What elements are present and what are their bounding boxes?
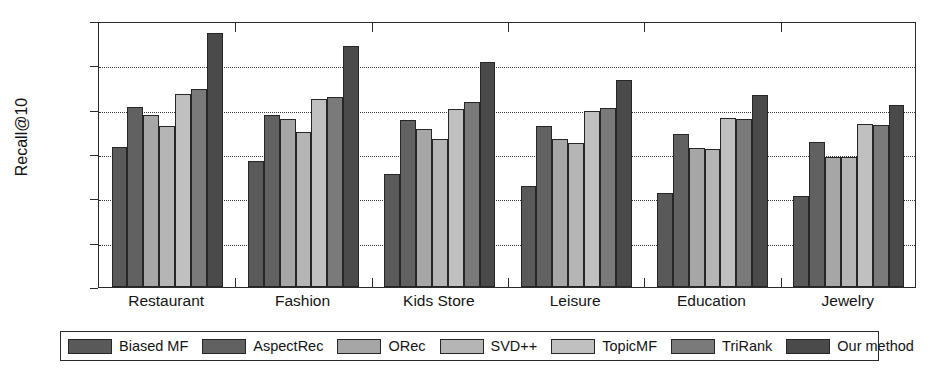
x-axis-tick-top bbox=[781, 23, 782, 32]
legend-swatch bbox=[68, 339, 112, 354]
legend-swatch bbox=[671, 339, 715, 354]
legend-item[interactable]: Biased MF bbox=[68, 338, 202, 354]
legend-item[interactable]: TopicMF bbox=[551, 338, 671, 354]
x-axis-tick-top bbox=[508, 23, 509, 32]
legend-label: ORec bbox=[388, 338, 425, 354]
bar[interactable] bbox=[112, 147, 128, 287]
legend-label: Biased MF bbox=[119, 338, 188, 354]
legend-label: TriRank bbox=[722, 338, 772, 354]
bar[interactable] bbox=[568, 143, 584, 287]
bar[interactable] bbox=[207, 33, 223, 287]
bar[interactable] bbox=[343, 46, 359, 287]
bar[interactable] bbox=[127, 107, 143, 287]
x-axis-tick-bottom bbox=[372, 278, 373, 287]
legend-swatch bbox=[202, 339, 246, 354]
bar[interactable] bbox=[327, 97, 343, 287]
bar[interactable] bbox=[143, 115, 159, 287]
bar[interactable] bbox=[448, 109, 464, 287]
bar[interactable] bbox=[657, 193, 673, 287]
x-axis-tick-top bbox=[644, 23, 645, 32]
y-axis-tick-mark bbox=[90, 22, 98, 23]
y-axis-tick-mark bbox=[90, 199, 98, 200]
bar[interactable] bbox=[705, 149, 721, 287]
bar[interactable] bbox=[793, 196, 809, 287]
bar-group bbox=[657, 23, 768, 287]
bar[interactable] bbox=[841, 157, 857, 287]
x-axis-tick-top bbox=[235, 23, 236, 32]
plot-inner bbox=[99, 23, 915, 287]
bar-group-bars bbox=[384, 23, 495, 287]
x-axis-tick-bottom bbox=[781, 278, 782, 287]
bar-group bbox=[248, 23, 359, 287]
bar[interactable] bbox=[311, 99, 327, 287]
bar[interactable] bbox=[584, 111, 600, 287]
bar[interactable] bbox=[432, 139, 448, 287]
bar[interactable] bbox=[280, 119, 296, 287]
bar[interactable] bbox=[480, 62, 496, 287]
legend-item[interactable]: ORec bbox=[337, 338, 439, 354]
y-axis-tick-mark bbox=[90, 288, 98, 289]
bar[interactable] bbox=[464, 102, 480, 287]
bar[interactable] bbox=[552, 139, 568, 287]
bar[interactable] bbox=[248, 161, 264, 287]
legend-label: SVD++ bbox=[491, 338, 538, 354]
bar[interactable] bbox=[416, 129, 432, 287]
bar[interactable] bbox=[521, 186, 537, 287]
bar[interactable] bbox=[825, 157, 841, 287]
legend-item[interactable]: AspectRec bbox=[202, 338, 337, 354]
bar[interactable] bbox=[673, 134, 689, 287]
y-axis-label: Recall@10 bbox=[13, 77, 31, 197]
bar[interactable] bbox=[720, 118, 736, 287]
bar-group bbox=[521, 23, 632, 287]
bar[interactable] bbox=[384, 174, 400, 287]
bar-group bbox=[112, 23, 223, 287]
bar-group-bars bbox=[112, 23, 223, 287]
bar[interactable] bbox=[296, 132, 312, 287]
legend-swatch bbox=[551, 339, 595, 354]
bar-group-bars bbox=[657, 23, 768, 287]
legend-item[interactable]: TriRank bbox=[671, 338, 786, 354]
bar[interactable] bbox=[736, 119, 752, 287]
bar[interactable] bbox=[175, 94, 191, 287]
bar[interactable] bbox=[752, 95, 768, 287]
bar-group-bars bbox=[248, 23, 359, 287]
legend-label: AspectRec bbox=[253, 338, 323, 354]
legend-label: TopicMF bbox=[602, 338, 657, 354]
bar[interactable] bbox=[809, 142, 825, 287]
legend-swatch bbox=[786, 339, 830, 354]
figure-root: Recall@10 00.020.040.060.080.10.12 Resta… bbox=[0, 0, 935, 377]
bar[interactable] bbox=[400, 120, 416, 287]
bar-group-bars bbox=[793, 23, 904, 287]
bar-group bbox=[793, 23, 904, 287]
x-axis-tick-bottom bbox=[644, 278, 645, 287]
y-axis-tick-mark bbox=[90, 244, 98, 245]
x-axis-tick-bottom bbox=[235, 278, 236, 287]
bar[interactable] bbox=[616, 80, 632, 287]
bar-group bbox=[384, 23, 495, 287]
y-axis-tick-mark bbox=[90, 155, 98, 156]
legend-item[interactable]: SVD++ bbox=[440, 338, 552, 354]
bar[interactable] bbox=[889, 105, 905, 287]
bar-group-bars bbox=[521, 23, 632, 287]
chart-legend: Biased MFAspectRecORecSVD++TopicMFTriRan… bbox=[60, 331, 879, 361]
bar[interactable] bbox=[600, 108, 616, 287]
bar[interactable] bbox=[264, 115, 280, 287]
y-axis-tick-mark bbox=[90, 111, 98, 112]
bar[interactable] bbox=[159, 126, 175, 287]
y-axis-tick-mark bbox=[90, 66, 98, 67]
legend-label: Our method bbox=[837, 338, 914, 354]
legend-swatch bbox=[337, 339, 381, 354]
bar[interactable] bbox=[873, 125, 889, 287]
x-axis-tick-bottom bbox=[508, 278, 509, 287]
bar[interactable] bbox=[191, 89, 207, 287]
plot-area bbox=[98, 22, 916, 288]
bar[interactable] bbox=[689, 148, 705, 287]
legend-item[interactable]: Our method bbox=[786, 338, 914, 354]
x-axis-category-label: Jewelry bbox=[763, 292, 933, 310]
legend-swatch bbox=[440, 339, 484, 354]
bar[interactable] bbox=[536, 126, 552, 287]
x-axis-tick-top bbox=[372, 23, 373, 32]
bar[interactable] bbox=[857, 124, 873, 287]
